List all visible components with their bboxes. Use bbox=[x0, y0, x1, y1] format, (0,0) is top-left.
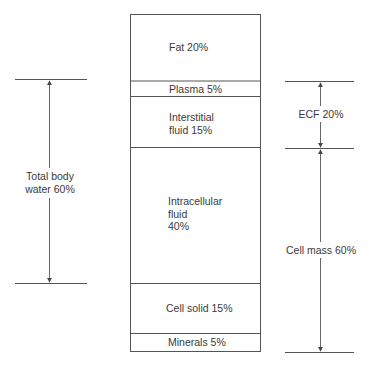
label-plasma: Plasma 5% bbox=[169, 83, 222, 96]
label-tbw-line2: water 60% bbox=[14, 183, 86, 196]
label-interstitial-line2: fluid 15% bbox=[169, 124, 212, 137]
label-intracellular-line1: Intracellular bbox=[168, 195, 222, 208]
composition-box bbox=[131, 15, 261, 352]
label-intracellular-line3: 40% bbox=[168, 220, 189, 233]
label-cell-mass: Cell mass 60% bbox=[283, 244, 359, 257]
label-minerals: Minerals 5% bbox=[168, 336, 226, 349]
label-intracellular-line2: fluid bbox=[168, 208, 187, 221]
body-composition-diagram: Fat 20% Plasma 5% Interstitial fluid 15%… bbox=[0, 0, 372, 372]
label-cell-solid: Cell solid 15% bbox=[166, 302, 233, 315]
label-tbw-line1: Total body bbox=[14, 170, 86, 183]
label-ecf: ECF 20% bbox=[286, 108, 356, 121]
label-interstitial-line1: Interstitial bbox=[169, 111, 214, 124]
label-fat: Fat 20% bbox=[169, 41, 208, 54]
